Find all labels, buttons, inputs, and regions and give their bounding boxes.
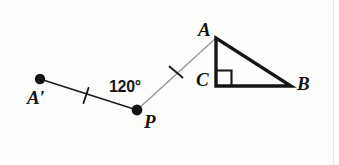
label-point-p: P bbox=[144, 112, 156, 131]
label-point-a: A bbox=[198, 20, 211, 39]
label-point-b: B bbox=[297, 74, 310, 93]
geometry-figure: A A′ B C P 120° bbox=[0, 0, 339, 165]
label-point-a-prime: A′ bbox=[27, 88, 45, 107]
tick-mark-p-a bbox=[170, 67, 183, 78]
figure-canvas bbox=[0, 0, 339, 165]
triangle-abc bbox=[216, 38, 291, 86]
tick-mark-aprime-p bbox=[84, 88, 89, 103]
label-point-c: C bbox=[196, 70, 209, 89]
point-dot-p bbox=[132, 105, 143, 116]
page-edge-line bbox=[333, 0, 334, 165]
label-angle-measure: 120° bbox=[109, 79, 141, 95]
point-dot-aprime bbox=[35, 74, 45, 84]
right-angle-marker-c bbox=[216, 71, 232, 87]
